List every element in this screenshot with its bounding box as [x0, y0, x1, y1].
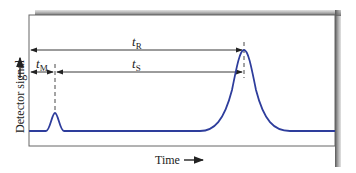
chromatogram-figure: tR tS tM Detector signal Time [0, 0, 356, 173]
x-axis-label-group: Time [155, 153, 203, 167]
y-axis-label-group: Detector signal [13, 58, 27, 133]
y-axis-label: Detector signal [13, 59, 27, 133]
x-axis-label: Time [155, 153, 180, 167]
plot-frame [29, 15, 335, 146]
